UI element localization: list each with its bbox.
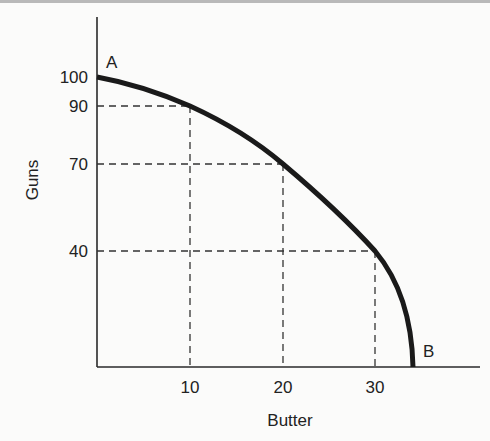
ppf-curve	[97, 77, 413, 367]
ppf-chart: A B 100 90 70 40 10 20 30 Butter Guns	[0, 0, 490, 441]
point-a-label: A	[106, 53, 118, 72]
y-axis-label: Guns	[23, 160, 42, 201]
x-axis-label: Butter	[267, 411, 313, 430]
y-tick-100: 100	[60, 68, 88, 87]
x-tick-10: 10	[181, 378, 200, 397]
y-tick-70: 70	[69, 155, 88, 174]
reference-lines	[97, 106, 375, 367]
x-tick-20: 20	[274, 378, 293, 397]
point-b-label: B	[423, 342, 434, 361]
y-tick-40: 40	[69, 242, 88, 261]
y-tick-90: 90	[69, 97, 88, 116]
x-tick-30: 30	[366, 378, 385, 397]
